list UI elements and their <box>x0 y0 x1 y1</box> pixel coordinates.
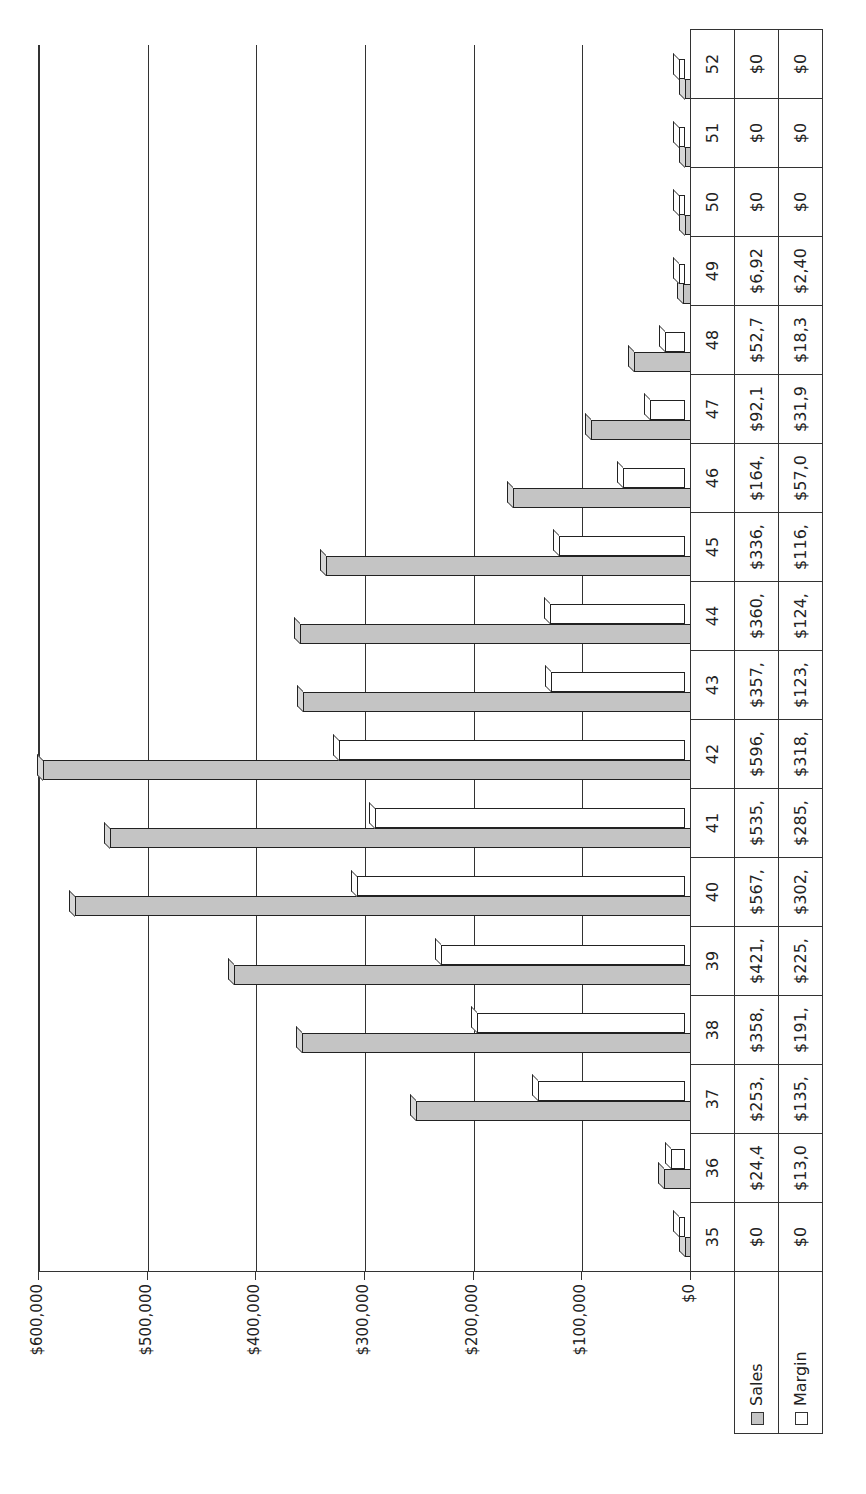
bar-3d-top <box>532 1075 538 1102</box>
week-label: 49 <box>691 237 735 306</box>
margin-bar-week-46 <box>623 468 685 488</box>
week-label: 46 <box>691 444 735 513</box>
bar-3d-top <box>673 121 679 148</box>
y-tick <box>38 1272 39 1280</box>
bar-3d-top <box>644 394 650 421</box>
y-tick-label: $0 <box>680 1284 698 1394</box>
margin-bar-week-40 <box>357 877 685 897</box>
bar-3d-top <box>673 189 679 216</box>
sales-bar-week-42 <box>43 760 691 780</box>
legend-sales-label: Sales <box>747 1363 766 1406</box>
bar-3d-top <box>435 938 441 965</box>
week-label: 39 <box>691 927 735 996</box>
sales-cell: $360, <box>735 582 779 651</box>
bar-3d-top <box>410 1095 416 1122</box>
sales-cell: $358, <box>735 996 779 1065</box>
margin-bar-week-48 <box>665 332 685 352</box>
y-tick-label: $300,000 <box>354 1284 372 1394</box>
sales-cell: $535, <box>735 789 779 858</box>
sales-cell: $253, <box>735 1065 779 1134</box>
week-label: 36 <box>691 1134 735 1203</box>
sales-cell: $567, <box>735 858 779 927</box>
week-label: 52 <box>691 30 735 99</box>
sales-bar-week-45 <box>326 556 691 576</box>
sales-swatch-icon <box>751 1412 764 1425</box>
margin-bar-week-43 <box>551 672 685 692</box>
y-tick-label: $500,000 <box>137 1284 155 1394</box>
sales-cell: $0 <box>735 99 779 168</box>
table-row-margin: Margin $0$13,0$135,$191,$225,$302,$285,$… <box>779 30 823 1434</box>
bar-3d-top <box>673 1211 679 1238</box>
margin-cell: $225, <box>779 927 823 996</box>
margin-bar-week-41 <box>375 808 685 828</box>
y-tick <box>581 1272 582 1280</box>
bar-3d-top <box>544 598 550 625</box>
chart-stage: 353637383940414243444546474849505152 Sal… <box>0 0 866 1494</box>
margin-cell: $18,3 <box>779 306 823 375</box>
margin-cell: $31,9 <box>779 375 823 444</box>
sales-bar-week-38 <box>302 1033 691 1053</box>
week-label: 38 <box>691 996 735 1065</box>
table-row-weeks: 353637383940414243444546474849505152 <box>691 30 735 1434</box>
bar-3d-top <box>297 686 303 713</box>
week-label: 45 <box>691 513 735 582</box>
y-tick <box>147 1272 148 1280</box>
y-tick <box>473 1272 474 1280</box>
margin-cell: $57,0 <box>779 444 823 513</box>
week-label: 48 <box>691 306 735 375</box>
margin-cell: $135, <box>779 1065 823 1134</box>
bar-3d-top <box>617 462 623 489</box>
sales-cell: $421, <box>735 927 779 996</box>
bar-3d-top <box>585 414 591 441</box>
bar-3d-top <box>320 550 326 577</box>
margin-cell: $0 <box>779 1203 823 1272</box>
bar-3d-top <box>69 890 75 917</box>
sales-bar-week-40 <box>75 897 691 917</box>
margin-cell: $0 <box>779 99 823 168</box>
sales-bar-week-41 <box>110 828 691 848</box>
week-label: 44 <box>691 582 735 651</box>
bar-3d-top <box>37 754 43 781</box>
sales-cell: $24,4 <box>735 1134 779 1203</box>
bar-3d-top <box>658 1163 664 1190</box>
bar-3d-top <box>553 530 559 557</box>
sales-bar-week-47 <box>591 420 691 440</box>
y-tick-label: $400,000 <box>245 1284 263 1394</box>
margin-cell: $0 <box>779 168 823 237</box>
sales-cell: $92,1 <box>735 375 779 444</box>
sales-bar-week-37 <box>416 1101 691 1121</box>
week-label: 50 <box>691 168 735 237</box>
bar-3d-top <box>628 345 634 372</box>
sales-cell: $0 <box>735 30 779 99</box>
bar-3d-top <box>545 666 551 693</box>
margin-bar-week-49 <box>679 264 685 284</box>
margin-cell: $191, <box>779 996 823 1065</box>
week-label: 51 <box>691 99 735 168</box>
bar-3d-top <box>471 1006 477 1033</box>
sales-cell: $0 <box>735 168 779 237</box>
week-label: 35 <box>691 1203 735 1272</box>
bar-3d-top <box>294 618 300 645</box>
margin-bar-week-47 <box>650 400 685 420</box>
sales-bar-week-43 <box>303 692 691 712</box>
y-tick-label: $600,000 <box>28 1284 46 1394</box>
gridline <box>256 45 257 1271</box>
sales-bar-week-48 <box>634 352 691 372</box>
sales-cell: $357, <box>735 651 779 720</box>
week-label: 47 <box>691 375 735 444</box>
sales-bar-week-39 <box>234 965 691 985</box>
margin-cell: $318, <box>779 720 823 789</box>
week-label: 42 <box>691 720 735 789</box>
margin-cell: $13,0 <box>779 1134 823 1203</box>
margin-cell: $123, <box>779 651 823 720</box>
margin-cell: $116, <box>779 513 823 582</box>
y-tick <box>364 1272 365 1280</box>
margin-bar-week-38 <box>477 1013 685 1033</box>
gridline <box>148 45 149 1271</box>
margin-cell: $285, <box>779 789 823 858</box>
sales-cell: $0 <box>735 1203 779 1272</box>
margin-bar-week-37 <box>538 1081 685 1101</box>
sales-bar-week-44 <box>300 624 691 644</box>
bar-3d-top <box>673 257 679 284</box>
sales-cell: $164, <box>735 444 779 513</box>
